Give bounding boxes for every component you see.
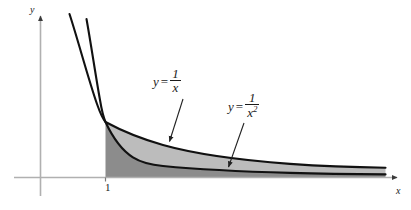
y-axis-label: y xyxy=(30,5,34,15)
curve-label-reciprocal-squared: y= 1 x2 xyxy=(228,92,259,120)
curve-label-reciprocal-squared-equals: = xyxy=(234,100,245,113)
figure-canvas: y= 1 x y= 1 x2 y x 1 xyxy=(0,0,411,210)
plot-area xyxy=(0,0,411,210)
curve-label-reciprocal-squared-denominator: x2 xyxy=(245,104,259,119)
curve-label-reciprocal-numerator: 1 xyxy=(170,67,181,80)
x-axis-label: x xyxy=(396,186,400,196)
curve-label-reciprocal: y= 1 x xyxy=(153,68,181,95)
curve-label-reciprocal-squared-numerator: 1 xyxy=(245,91,259,104)
leader-to-reciprocal xyxy=(170,99,184,142)
x-tick-label-1: 1 xyxy=(105,182,111,193)
curve-label-reciprocal-fraction: 1 x xyxy=(170,67,181,94)
curve-label-reciprocal-denominator: x xyxy=(170,80,181,94)
denominator-exponent: 2 xyxy=(253,104,257,114)
curve-label-reciprocal-equals: = xyxy=(159,75,170,88)
curve-label-reciprocal-squared-fraction: 1 x2 xyxy=(245,91,259,119)
